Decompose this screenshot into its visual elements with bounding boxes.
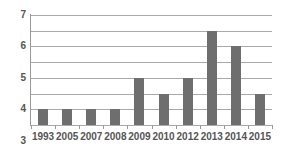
bar-series xyxy=(31,15,272,125)
bar xyxy=(255,94,265,125)
x-axis-tick xyxy=(224,125,225,129)
x-axis-tick-label: 2010 xyxy=(152,132,174,142)
x-axis-tick xyxy=(127,125,128,129)
y-axis-tick-label: 4 xyxy=(20,104,26,114)
x-axis-tick-label: 2005 xyxy=(56,132,78,142)
x-axis-tick xyxy=(176,125,177,129)
bar xyxy=(62,109,72,125)
bar-chart: 01234567 1993200520072008200920102012201… xyxy=(0,0,286,151)
plot-area: 01234567 xyxy=(31,15,272,125)
x-axis-tick-label: 1993 xyxy=(32,132,54,142)
y-axis-tick-label: 6 xyxy=(20,41,26,51)
x-axis-tick xyxy=(31,125,32,129)
bar xyxy=(183,78,193,125)
y-axis-tick-label: 5 xyxy=(20,73,26,83)
bar xyxy=(110,109,120,125)
x-axis-tick-label: 2007 xyxy=(80,132,102,142)
x-axis-tick-label: 2009 xyxy=(128,132,150,142)
bar xyxy=(134,78,144,125)
x-axis-tick xyxy=(103,125,104,129)
bar xyxy=(86,109,96,125)
x-axis-tick xyxy=(79,125,80,129)
x-axis-tick xyxy=(248,125,249,129)
x-axis-tick xyxy=(55,125,56,129)
x-axis-tick-label: 2012 xyxy=(177,132,199,142)
x-axis-tick-label: 2014 xyxy=(225,132,247,142)
bar xyxy=(38,109,48,125)
y-axis-tick-label: 7 xyxy=(20,10,26,20)
y-axis-tick-label: 3 xyxy=(20,136,26,146)
x-axis-tick xyxy=(152,125,153,129)
x-axis-tick-label: 2015 xyxy=(249,132,271,142)
x-axis-tick xyxy=(200,125,201,129)
x-axis-labels: 1993200520072008200920102012201320142015 xyxy=(31,132,272,146)
x-axis-tick-label: 2013 xyxy=(201,132,223,142)
bar xyxy=(159,94,169,125)
x-axis-tick-label: 2008 xyxy=(104,132,126,142)
bar xyxy=(207,31,217,125)
bar xyxy=(231,46,241,125)
x-axis-tick xyxy=(272,125,273,129)
